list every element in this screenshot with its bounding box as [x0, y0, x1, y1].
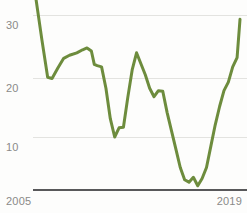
y-tick-label-10: 10 [6, 142, 19, 153]
plot-area [0, 0, 247, 213]
y-tick-label-20: 20 [6, 83, 19, 94]
x-tick-label-end: 2019 [217, 195, 242, 207]
series-line-value [0, 0, 247, 213]
y-tick-label-30: 30 [6, 20, 19, 31]
line-chart: 30 20 10 2005 2019 [0, 0, 247, 213]
x-tick-label-start: 2005 [6, 195, 31, 207]
x-axis-line [33, 189, 247, 191]
